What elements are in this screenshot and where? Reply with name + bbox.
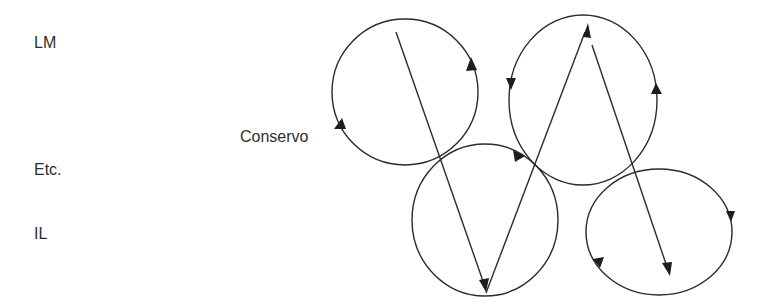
- arrow-up-icon: [583, 23, 591, 38]
- vector-2: [486, 23, 591, 293]
- arrowhead-icon: [651, 83, 662, 94]
- arrowhead-icon: [726, 211, 735, 222]
- circle-bottom-right: [586, 169, 735, 295]
- circle-top-left: [332, 19, 478, 165]
- arrowhead-icon: [466, 57, 477, 71]
- vector-3: [592, 45, 672, 276]
- arrowhead-icon: [334, 118, 346, 129]
- arrowhead-icon: [506, 78, 516, 90]
- arrow-down-icon: [662, 262, 672, 276]
- cycle-diagram: [0, 0, 761, 304]
- circle-bottom-middle: [412, 144, 558, 296]
